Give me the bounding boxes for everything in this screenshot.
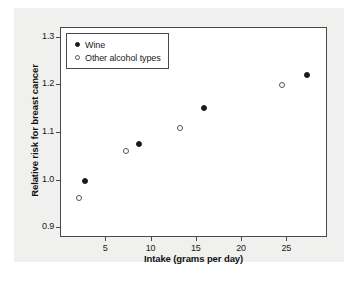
x-tick-mark — [151, 237, 152, 241]
y-tick-label: 1.2 — [24, 78, 54, 88]
chart-legend: WineOther alcohol types — [66, 33, 169, 69]
data-point — [177, 125, 183, 131]
data-point — [136, 141, 142, 147]
x-tick-mark — [241, 237, 242, 241]
x-tick-mark — [196, 237, 197, 241]
x-axis-label: Intake (grams per day) — [60, 253, 327, 264]
y-tick-label: 1.0 — [24, 174, 54, 184]
x-tick-label: 15 — [181, 243, 211, 253]
data-point — [76, 195, 82, 201]
x-tick-mark — [105, 237, 106, 241]
legend-item: Wine — [72, 38, 161, 51]
legend-label: Other alcohol types — [85, 53, 161, 63]
legend-swatch — [75, 55, 80, 60]
data-point — [304, 72, 310, 78]
y-tick-label: 1.3 — [24, 31, 54, 41]
legend-swatch — [75, 42, 80, 47]
open-circle-icon — [72, 55, 82, 60]
legend-item: Other alcohol types — [72, 51, 161, 64]
x-tick-label: 10 — [136, 243, 166, 253]
data-point — [82, 178, 88, 184]
plot-area: WineOther alcohol types — [60, 27, 327, 237]
data-point — [201, 105, 207, 111]
x-tick-label: 20 — [226, 243, 256, 253]
y-tick-label: 0.9 — [24, 221, 54, 231]
legend-label: Wine — [85, 40, 105, 50]
x-tick-label: 25 — [271, 243, 301, 253]
figure: Relative risk for breast cancer Intake (… — [0, 0, 354, 286]
data-point — [123, 148, 129, 154]
x-tick-label: 5 — [90, 243, 120, 253]
data-point — [279, 82, 285, 88]
y-tick-label: 1.1 — [24, 126, 54, 136]
x-tick-mark — [286, 237, 287, 241]
filled-circle-icon — [72, 42, 82, 47]
